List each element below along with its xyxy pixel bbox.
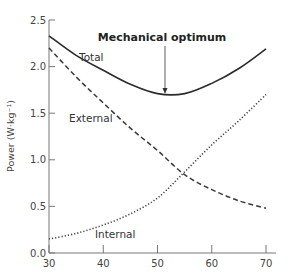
y-tick-label: 1.5 <box>30 108 46 119</box>
y-tick-label: 1.0 <box>30 154 46 165</box>
curves <box>49 36 266 239</box>
series-label-internal: Internal <box>95 228 135 240</box>
series-line-total <box>49 36 266 95</box>
y-axis-label: Power (W·kg⁻¹) <box>5 100 16 172</box>
power-chart: 0.00.51.01.52.02.53040506070 Total Exter… <box>0 0 291 279</box>
y-tick-label: 2.0 <box>30 61 46 72</box>
x-tick-label: 40 <box>97 258 110 269</box>
series-label-total: Total <box>78 51 104 63</box>
y-tick-label: 2.5 <box>30 15 46 26</box>
x-tick-label: 50 <box>151 258 164 269</box>
x-tick-label: 70 <box>260 258 273 269</box>
axes: 0.00.51.01.52.02.53040506070 <box>30 15 276 270</box>
y-tick-label: 0.0 <box>30 248 46 259</box>
y-tick-label: 0.5 <box>30 201 46 212</box>
annotation-arrow <box>163 46 168 94</box>
annotation-mechanical-optimum: Mechanical optimum <box>98 31 227 44</box>
x-tick-label: 60 <box>205 258 218 269</box>
x-tick-label: 30 <box>43 258 56 269</box>
series-label-external: External <box>69 112 113 124</box>
